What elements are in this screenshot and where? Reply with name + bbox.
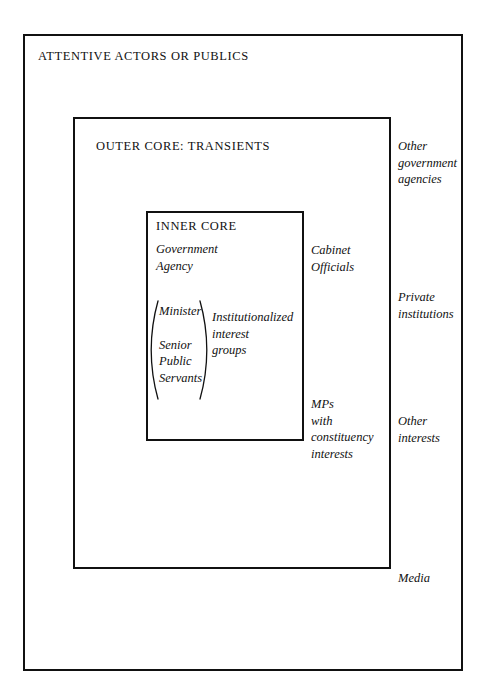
- senior-public-servants-label: Senior Public Servants: [159, 337, 203, 387]
- government-agency-label: Government Agency: [156, 241, 218, 274]
- minister-label: Minister: [159, 303, 203, 320]
- outer-box-label: ATTENTIVE ACTORS OR PUBLICS: [38, 48, 249, 65]
- inner-box-label: INNER CORE: [156, 218, 237, 235]
- diagram-canvas: ATTENTIVE ACTORS OR PUBLICS OUTER CORE: …: [0, 0, 486, 700]
- other-interests-label: Other interests: [398, 413, 440, 446]
- open-paren-icon: [150, 300, 159, 400]
- middle-box-label: OUTER CORE: TRANSIENTS: [96, 138, 270, 155]
- minister-servants-bracket-group: Minister Senior Public Servants: [150, 303, 208, 397]
- mps-constituency-label: MPs with constituency interests: [311, 396, 373, 462]
- bracket-group-text: Minister Senior Public Servants: [159, 303, 203, 386]
- institutionalized-interest-groups-label: Institutionalized interest groups: [212, 309, 293, 359]
- private-institutions-label: Private institutions: [398, 289, 454, 322]
- media-label: Media: [398, 570, 430, 587]
- other-government-agencies-label: Other government agencies: [398, 138, 457, 188]
- cabinet-officials-label: Cabinet Officials: [311, 242, 354, 275]
